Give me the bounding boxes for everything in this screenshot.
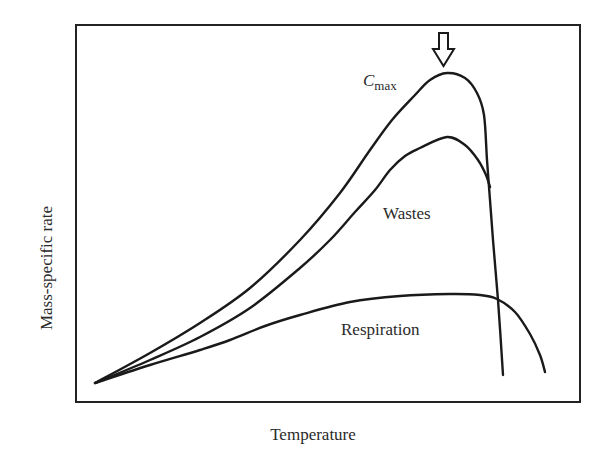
plot-frame (76, 25, 580, 402)
respiration-curve (95, 294, 545, 383)
y-axis-label: Mass-specific rate (37, 206, 56, 330)
cmax-label-main: C (363, 71, 375, 90)
respiration-label: Respiration (341, 320, 420, 339)
x-axis-label: Temperature (270, 425, 356, 444)
peak-arrow-icon (433, 33, 454, 66)
wastes-label: Wastes (383, 204, 431, 223)
cmax-label: Cmax (363, 71, 397, 93)
chart: Cmax Wastes Respiration Temperature Mass… (0, 0, 605, 453)
cmax-label-sub: max (374, 78, 397, 93)
wastes-curve (95, 137, 490, 383)
cmax-curve (95, 73, 503, 383)
